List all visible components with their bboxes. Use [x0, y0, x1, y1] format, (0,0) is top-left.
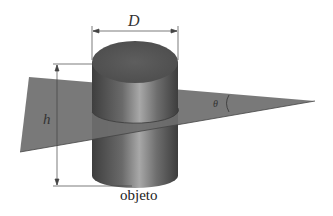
diameter-label: D [127, 12, 140, 29]
cylinder-top-face [92, 41, 178, 83]
height-label: h [43, 111, 51, 127]
angle-label: θ [213, 98, 218, 109]
cylinder-upper [92, 41, 179, 123]
object-label: objeto [120, 187, 158, 203]
cylinder-plane-diagram: D h θ objeto [0, 0, 333, 216]
